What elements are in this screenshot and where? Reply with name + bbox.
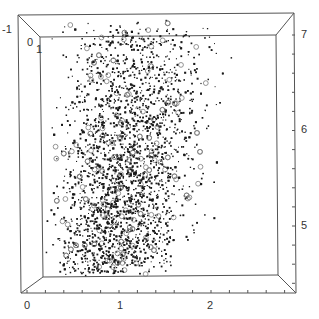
data-point-dot [158,56,159,57]
data-point-dot [156,197,157,198]
data-point-dot [165,214,166,215]
data-point-dot [134,199,135,200]
data-point-dot [90,207,91,208]
data-point-dot [143,240,144,241]
data-point-circle [165,21,170,26]
data-point-dot [189,113,191,115]
data-point-dot [80,250,82,252]
data-point-dot [157,207,159,209]
data-point-dot [191,110,193,112]
data-point-dot [129,124,131,126]
data-point-dot [147,89,149,91]
data-point-dot [181,131,183,133]
data-point-dot [96,225,98,227]
data-point-dot [128,128,129,129]
data-point-dot [154,155,156,157]
data-point-dot [111,213,113,215]
data-point-dot [98,208,99,209]
data-point-dot [108,252,110,254]
data-point-dot [122,169,124,171]
data-point-dot [136,229,137,230]
data-point-dot [172,28,174,30]
data-point-dot [74,205,76,207]
data-point-dot [102,251,104,253]
data-point-dot [161,184,163,186]
data-point-dot [179,189,180,190]
data-point-dot [106,56,107,57]
data-point-dot [110,95,112,97]
scatter-points [46,20,232,277]
data-point-dot [121,167,123,169]
data-point-dot [130,209,132,211]
data-point-dot [120,163,121,164]
data-point-dot [115,47,117,49]
data-point-dot [103,174,105,176]
depth-tick-label-1: 1 [36,43,42,55]
data-point-dot [123,88,124,89]
data-point-dot [114,91,116,93]
data-point-dot [90,158,92,160]
data-point-dot [89,238,90,239]
data-point-dot [166,210,168,212]
data-point-dot [102,203,104,205]
data-point-dot [83,109,85,111]
data-point-circle [69,247,74,252]
data-point-dot [79,101,81,103]
data-point-dot [96,218,97,219]
data-point-dot [112,147,114,149]
data-point-dot [98,243,100,245]
data-point-dot [138,261,139,262]
data-point-dot [88,172,89,173]
data-point-dot [165,146,166,147]
data-point-dot [134,135,136,137]
data-point-dot [170,44,171,45]
data-point-dot [89,66,90,67]
data-point-dot [69,124,71,126]
data-point-dot [153,38,155,40]
data-point-dot [140,196,141,197]
data-point-dot [77,250,79,252]
data-point-circle [144,165,149,170]
data-point-dot [89,57,90,58]
data-point-dot [82,165,84,167]
data-point-dot [188,51,190,53]
data-point-dot [152,53,154,55]
data-point-dot [186,236,188,238]
data-point-dot [136,23,138,25]
data-point-dot [133,180,135,182]
data-point-dot [109,189,111,191]
data-point-dot [136,241,138,243]
data-point-dot [79,231,81,233]
data-point-dot [143,39,145,41]
data-point-dot [182,214,184,216]
data-point-dot [130,169,131,170]
data-point-dot [115,226,117,228]
data-point-dot [111,135,112,136]
data-point-dot [131,67,132,68]
data-point-dot [177,114,178,115]
data-point-dot [98,264,100,266]
data-point-dot [110,108,111,109]
data-point-dot [155,203,157,205]
data-point-dot [119,94,120,95]
data-point-dot [77,230,78,231]
data-point-dot [135,188,137,190]
data-point-dot [85,139,87,141]
data-point-dot [146,210,148,212]
data-point-dot [126,121,128,123]
data-point-dot [160,114,162,116]
data-point-dot [174,44,176,46]
data-point-dot [140,100,141,101]
data-point-dot [129,143,131,145]
data-point-dot [112,68,114,70]
data-point-dot [153,145,154,146]
data-point-dot [190,72,191,73]
data-point-dot [159,43,160,44]
data-point-dot [92,237,94,239]
data-point-dot [197,78,199,80]
data-point-dot [145,218,146,219]
data-point-dot [141,225,142,226]
data-point-dot [161,172,163,174]
data-point-dot [158,190,159,191]
data-point-dot [109,150,110,151]
